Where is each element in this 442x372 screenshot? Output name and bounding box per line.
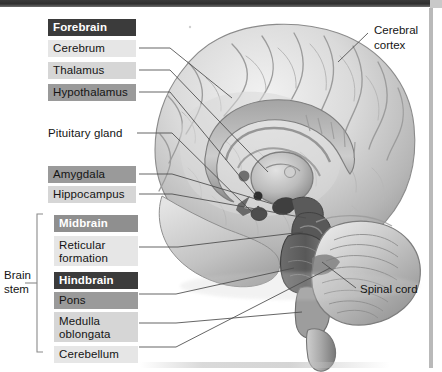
label-hippocampus[interactable]: Hippocampus <box>48 186 136 203</box>
label-cerebral-cortex-line2[interactable]: cortex <box>374 39 405 52</box>
leader-hippocampus <box>139 194 306 218</box>
bracket-label-line2: stem <box>4 283 29 296</box>
leader-cerebrum <box>139 48 232 98</box>
label-spinal-cord[interactable]: Spinal cord <box>360 283 418 296</box>
label-cerebellum[interactable]: Cerebellum <box>54 346 138 363</box>
label-thalamus[interactable]: Thalamus <box>48 62 136 79</box>
page-corner-cap <box>430 0 442 8</box>
leader-reticular <box>139 232 303 247</box>
label-cerebral-cortex-line1[interactable]: Cerebral <box>374 24 418 37</box>
page-right-rule <box>429 8 433 368</box>
leader-cerebellum <box>139 268 330 347</box>
leader-thalamus <box>139 70 268 172</box>
label-medulla-oblongata[interactable]: Medulla oblongata <box>54 312 138 342</box>
label-midbrain[interactable]: Midbrain <box>54 215 138 232</box>
leader-pituitary <box>137 133 252 212</box>
leader-cerebral-cortex <box>338 33 368 62</box>
label-forebrain[interactable]: Forebrain <box>48 19 136 36</box>
label-amygdala[interactable]: Amygdala <box>48 166 136 183</box>
leader-medulla <box>139 312 302 323</box>
leader-spinal-cord <box>322 262 356 288</box>
leader-hypothalamus <box>139 92 256 196</box>
label-hindbrain[interactable]: Hindbrain <box>54 272 138 289</box>
label-reticular-formation[interactable]: Reticular formation <box>54 236 138 266</box>
leader-pons <box>139 268 294 294</box>
page-top-bar <box>0 0 430 7</box>
diagram-canvas: Forebrain Cerebrum Thalamus Hypothalamus… <box>0 0 442 372</box>
label-hypothalamus[interactable]: Hypothalamus <box>48 84 136 101</box>
label-cerebrum[interactable]: Cerebrum <box>48 40 136 57</box>
label-pons[interactable]: Pons <box>54 292 138 309</box>
bracket-label-line1: Brain <box>4 269 31 282</box>
label-pituitary-gland[interactable]: Pituitary gland <box>48 126 142 141</box>
page-bottom-edge <box>140 362 390 368</box>
